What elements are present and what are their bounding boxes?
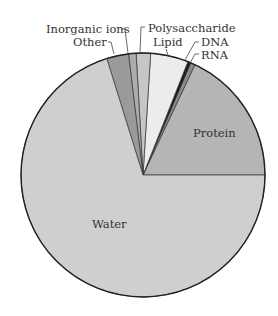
label-polysaccharide: Polysaccharide [148, 21, 236, 35]
label-other: Other [73, 35, 107, 49]
pie-slices [21, 53, 265, 297]
leader-line-polysaccharide [140, 27, 145, 53]
leader-line-dna [185, 42, 199, 60]
label-inorganic-ions: Inorganic ions [46, 22, 130, 36]
label-dna: DNA [201, 35, 229, 49]
pie-chart: Inorganic ionsOtherPolysaccharideLipidDN… [0, 0, 278, 316]
leader-line-rna [190, 54, 199, 63]
label-lipid: Lipid [153, 35, 183, 49]
label-water: Water [92, 217, 127, 231]
leader-line-lipid [166, 49, 168, 55]
label-rna: RNA [201, 48, 229, 62]
label-protein: Protein [193, 126, 236, 140]
leader-line-other [108, 42, 114, 54]
